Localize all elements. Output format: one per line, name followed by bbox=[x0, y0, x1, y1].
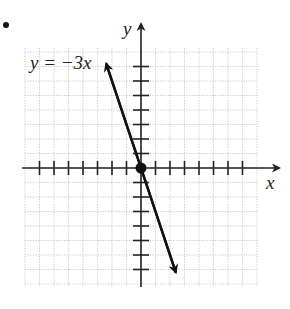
x-axis-label: x bbox=[266, 172, 274, 194]
equation-label: y = −3x bbox=[30, 52, 92, 74]
coordinate-plane bbox=[0, 0, 290, 309]
y-axis-label: y bbox=[123, 18, 131, 40]
